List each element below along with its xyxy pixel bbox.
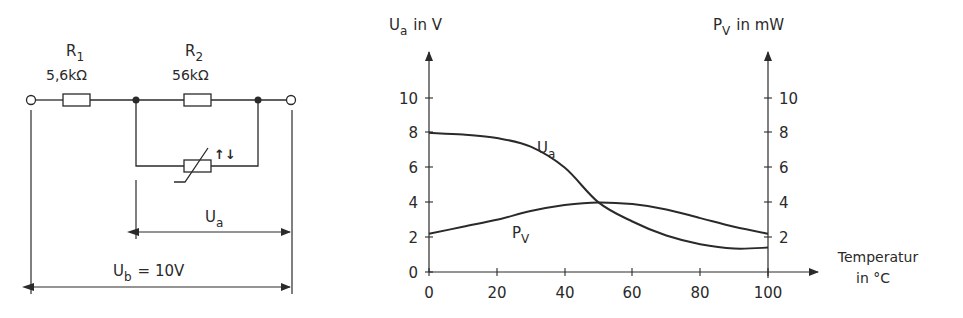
r2-label: R2 [185,42,203,64]
svg-text:20: 20 [487,284,506,302]
circuit-diagram: R1 5,6kΩ R2 56kΩ ↑↓ Ua [27,42,296,294]
svg-text:2: 2 [779,229,789,247]
output-terminal [287,96,296,105]
svg-text:in °C: in °C [856,270,890,286]
r1-label: R1 [66,42,84,64]
svg-text:60: 60 [622,284,641,302]
pv-series-label: PV [512,224,530,246]
svg-text:Temperatur: Temperatur [837,249,919,265]
svg-text:4: 4 [779,194,789,212]
svg-text:6: 6 [408,159,418,177]
r1-value: 5,6kΩ [46,67,87,83]
right-axis-title: PVin mW [713,16,784,38]
svg-text:10: 10 [399,90,418,108]
ua-label: Ua [205,208,223,230]
svg-text:40: 40 [555,284,574,302]
x-axis-title: Temperatur in °C [837,249,919,286]
ub-label: Ub= 10V [113,262,185,284]
svg-text:4: 4 [408,194,418,212]
ua-series-label: Ua [537,139,555,161]
x-tick-labels: 0 20 40 60 80 100 [424,284,782,302]
svg-text:0: 0 [424,284,434,302]
svg-text:6: 6 [779,159,789,177]
left-y-tick-labels: 0 2 4 6 8 10 [399,90,418,282]
r1-resistor [63,94,90,106]
svg-text:8: 8 [779,124,789,142]
ntc-thermistor [184,160,211,172]
chart: Uain V PVin mW 0 2 4 6 8 10 [389,16,918,302]
ua-curve [429,133,768,249]
svg-text:8: 8 [408,124,418,142]
svg-text:100: 100 [754,284,783,302]
pv-curve [429,202,768,233]
svg-text:10: 10 [779,90,798,108]
right-y-tick-labels: 2 4 6 8 10 [779,90,798,247]
left-axis-title: Uain V [389,16,443,38]
r2-value: 56kΩ [172,67,209,83]
svg-text:2: 2 [408,229,418,247]
svg-text:80: 80 [690,284,709,302]
input-terminal [27,96,36,105]
r2-resistor [184,94,211,106]
svg-text:0: 0 [408,264,418,282]
temperature-arrows-icon: ↑↓ [214,147,236,162]
